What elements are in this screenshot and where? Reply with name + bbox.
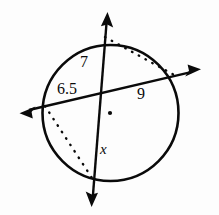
lower-left-dashed-chord — [45, 106, 94, 181]
circle-center-dot — [108, 111, 112, 115]
segment-label-x: x — [100, 142, 107, 157]
arrowhead-right-icon — [185, 64, 201, 76]
figure-canvas — [0, 0, 219, 215]
segment-label-7: 7 — [80, 54, 88, 70]
geometry-figure: 7 6.5 9 x — [0, 0, 219, 215]
upper-right-dashed-chord — [105, 37, 176, 76]
segment-label-6-5: 6.5 — [57, 81, 77, 97]
vertical-secant-line — [93, 22, 107, 197]
segment-label-9: 9 — [137, 86, 145, 102]
arrowhead-left-icon — [20, 106, 36, 118]
